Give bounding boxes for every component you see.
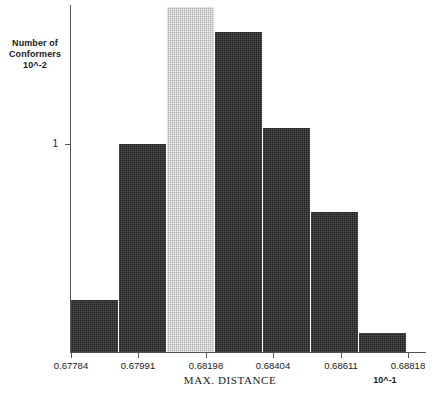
- x-axis-exponent-label: 10^-1: [355, 375, 415, 385]
- x-tick-mark: [138, 353, 139, 358]
- x-tick-label: 0.68611: [306, 360, 376, 371]
- x-tick-mark: [341, 353, 342, 358]
- x-tick-label: 0.68818: [373, 360, 443, 371]
- x-tick-label: 0.67784: [36, 360, 106, 371]
- plot-area: [71, 5, 408, 352]
- histogram-bar-highlighted: [167, 7, 215, 352]
- x-tick-label: 0.68198: [171, 360, 241, 371]
- x-tick-mark: [408, 353, 409, 358]
- histogram-bar: [71, 300, 119, 352]
- x-tick-mark: [206, 353, 207, 358]
- histogram-bar: [215, 32, 263, 352]
- x-tick-label: 0.67991: [103, 360, 173, 371]
- y-axis-label-line-2: Conformers: [2, 49, 68, 60]
- histogram-bar: [119, 144, 167, 352]
- x-tick-mark: [273, 353, 274, 358]
- histogram-bar: [359, 333, 407, 352]
- histogram-bar: [311, 212, 359, 352]
- x-tick-label: 0.68404: [238, 360, 308, 371]
- y-axis-label: Number of Conformers 10^-2: [2, 38, 68, 71]
- x-tick-mark: [71, 353, 72, 358]
- x-axis-title: MAX. DISTANCE: [120, 374, 340, 386]
- histogram-chart: Number of Conformers 10^-2 1 0.67784 0.6…: [0, 0, 448, 398]
- x-axis-line: [70, 352, 426, 353]
- histogram-bar: [263, 128, 311, 352]
- y-axis-label-line-1: Number of: [2, 38, 68, 49]
- y-tick-label-1: 1: [18, 138, 58, 149]
- y-axis-label-exponent: 10^-2: [2, 60, 68, 71]
